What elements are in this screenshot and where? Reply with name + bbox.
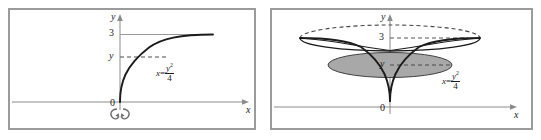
- x-axis-label: x: [246, 105, 250, 115]
- solid-panel: y x 3 y 0 x=y24: [270, 8, 533, 130]
- tick-label-y: y: [109, 51, 113, 61]
- figure-container: y x 3 y 0 x=y24: [0, 0, 541, 140]
- origin-label: 0: [380, 103, 385, 113]
- origin-label: 0: [110, 98, 115, 108]
- equation-fraction: y24: [451, 72, 460, 91]
- region-panel: y x 3 y 0 x=y24: [8, 8, 256, 130]
- equation-fraction: y24: [165, 64, 174, 83]
- equation-exponent: 2: [170, 62, 173, 68]
- equation-exponent: 2: [456, 70, 459, 76]
- y-axis-arrow: [387, 14, 393, 21]
- y-axis-label: y: [111, 12, 115, 22]
- revolution-arrows: [111, 109, 129, 119]
- equation-denominator: 4: [165, 74, 174, 83]
- tick-label-3: 3: [379, 32, 384, 42]
- y-axis-arrow: [117, 14, 123, 21]
- region-graph: [10, 10, 254, 128]
- tick-label-3: 3: [109, 28, 114, 38]
- curve-equation-label: x=y24: [156, 64, 174, 83]
- curve-equation-label: x=y24: [442, 72, 460, 91]
- x-axis-label: x: [514, 110, 518, 120]
- equation-denominator: 4: [451, 82, 460, 91]
- solid-graph: [272, 10, 531, 128]
- y-axis-label: y: [381, 12, 385, 22]
- tick-label-y: y: [380, 59, 384, 69]
